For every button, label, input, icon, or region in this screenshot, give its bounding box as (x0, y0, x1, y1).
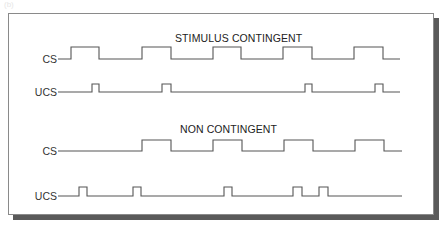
non-contingent-title: NON CONTINGENT (180, 123, 278, 135)
sc-ucs-label: UCS (35, 86, 57, 98)
sc-ucs-waveform (58, 84, 400, 92)
timing-diagram: STIMULUS CONTINGENT CS UCS NON CONTINGEN… (0, 0, 447, 230)
sc-cs-label: CS (42, 53, 57, 65)
nc-cs-label: CS (42, 145, 57, 157)
nc-ucs-label: UCS (35, 190, 57, 202)
stimulus-contingent-title: STIMULUS CONTINGENT (175, 32, 303, 44)
nc-cs-waveform (58, 140, 402, 151)
nc-ucs-waveform (58, 187, 402, 196)
sc-cs-waveform (58, 47, 400, 59)
